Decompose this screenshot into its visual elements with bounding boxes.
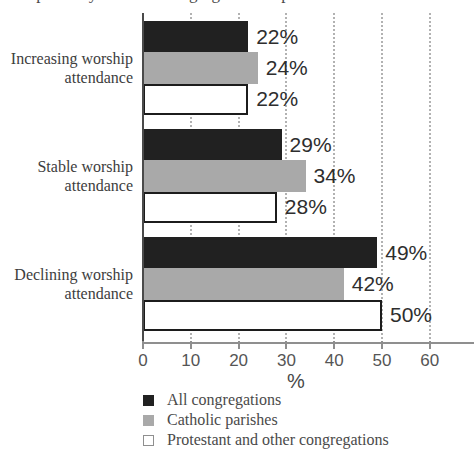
x-tick-label-0: 0 [123,351,163,371]
legend-swatch-icon-all-congregations [143,395,154,406]
x-tick-label-50: 50 [362,351,402,371]
value-label-protestant-and-other-congregations-stable-worship-attendance: 28% [285,195,327,219]
x-tick-60 [429,341,431,349]
value-label-catholic-parishes-stable-worship-attendance: 34% [314,164,356,188]
category-label-line: attendance [0,176,133,195]
bar-catholic-parishes-increasing-worship-attendance [143,52,258,83]
bar-all-congregations-declining-worship-attendance [143,237,377,268]
category-label-increasing-worship-attendance: Increasing worshipattendance [0,49,133,87]
x-tick-0 [142,341,144,349]
legend-swatch-icon-catholic-parishes [143,415,154,426]
x-tick-40 [333,341,335,349]
bar-catholic-parishes-stable-worship-attendance [143,160,306,191]
x-tick-label-10: 10 [171,351,211,371]
legend-swatch-icon-protestant-and-other-congregations [143,435,154,446]
value-label-catholic-parishes-declining-worship-attendance: 42% [352,272,394,296]
category-label-line: attendance [0,284,133,303]
legend-item-all-congregations: All congregations [143,390,281,410]
x-tick-20 [238,341,240,349]
clipped-title-fragment: compared by whether congregations report [6,0,436,4]
category-label-line: attendance [0,68,133,87]
category-label-stable-worship-attendance: Stable worshipattendance [0,157,133,195]
bar-all-congregations-stable-worship-attendance [143,129,282,160]
x-axis-label: % [276,370,316,393]
x-tick-30 [285,341,287,349]
category-label-line: Declining worship [0,265,133,284]
legend-item-catholic-parishes: Catholic parishes [143,410,278,430]
value-label-all-congregations-increasing-worship-attendance: 22% [256,25,298,49]
legend-label-protestant-and-other-congregations: Protestant and other congregations [167,431,389,449]
x-tick-10 [190,341,192,349]
bar-catholic-parishes-declining-worship-attendance [143,268,344,299]
bar-protestant-and-other-congregations-increasing-worship-attendance [143,84,248,115]
y-axis-line [142,13,144,343]
value-label-protestant-and-other-congregations-increasing-worship-attendance: 22% [256,87,298,111]
x-axis-line [142,342,474,344]
plot-area: 22%24%22%29%34%28%49%42%50% [143,13,474,343]
legend-label-all-congregations: All congregations [167,391,281,409]
value-label-catholic-parishes-increasing-worship-attendance: 24% [266,56,308,80]
x-tick-label-20: 20 [219,351,259,371]
x-tick-50 [381,341,383,349]
x-tick-label-40: 40 [314,351,354,371]
clipped-title-text: compared by whether congregations report [6,0,436,6]
legend-item-protestant-and-other-congregations: Protestant and other congregations [143,430,389,450]
value-label-protestant-and-other-congregations-declining-worship-attendance: 50% [390,303,432,327]
legend-label-catholic-parishes: Catholic parishes [167,411,278,429]
value-label-all-congregations-stable-worship-attendance: 29% [290,133,332,157]
bar-all-congregations-increasing-worship-attendance [143,21,248,52]
x-tick-label-30: 30 [266,351,306,371]
bar-protestant-and-other-congregations-stable-worship-attendance [143,192,277,223]
x-tick-label-60: 60 [410,351,450,371]
category-label-line: Increasing worship [0,49,133,68]
category-label-line: Stable worship [0,157,133,176]
value-label-all-congregations-declining-worship-attendance: 49% [385,241,427,265]
bar-protestant-and-other-congregations-declining-worship-attendance [143,300,382,331]
category-label-declining-worship-attendance: Declining worshipattendance [0,265,133,303]
gridline-60 [429,13,431,343]
bar-chart-figure: compared by whether congregations report… [0,0,475,454]
